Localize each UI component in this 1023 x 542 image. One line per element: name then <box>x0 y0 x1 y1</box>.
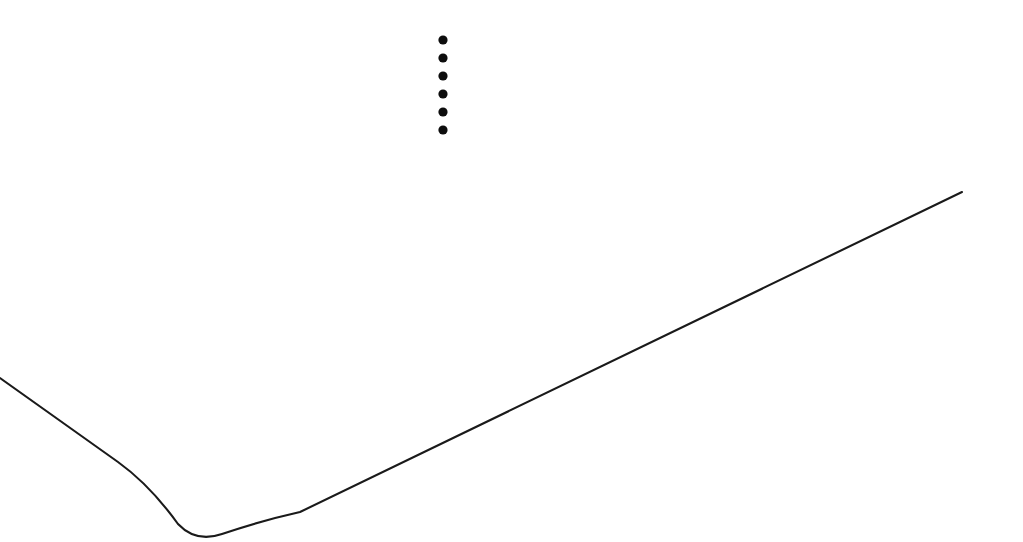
ellipsis-dot <box>438 125 447 134</box>
ellipsis-dot <box>438 71 447 80</box>
ellipsis-dot <box>438 89 447 98</box>
line-drawing-figure <box>0 0 1023 542</box>
page-background <box>0 0 1023 542</box>
ellipsis-dot <box>438 35 447 44</box>
ellipsis-dot <box>438 53 447 62</box>
page-canvas <box>0 0 1023 542</box>
ellipsis-dot <box>438 107 447 116</box>
